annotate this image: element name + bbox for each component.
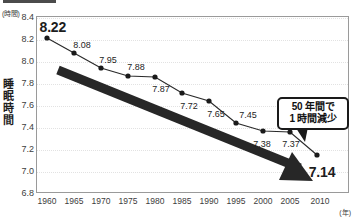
y-axis-ticks: 8.4 8.2 8.0 7.8 7.6 7.4 7.2 7.0 6.8 (0, 0, 34, 220)
y-tick-label: 7.4 (2, 122, 34, 132)
point-label: 7.72 (180, 101, 198, 111)
decline-callout: 50 年間で 1 時間減少 (277, 97, 349, 130)
point-label: 7.88 (127, 62, 145, 72)
point-label: 7.95 (99, 55, 117, 65)
point-label: 8.08 (73, 40, 91, 50)
point-label: 7.38 (253, 139, 271, 149)
y-tick-label: 7.2 (2, 144, 34, 154)
y-tick-label: 8.2 (2, 34, 34, 44)
point-label: 7.87 (152, 84, 170, 94)
gridline (37, 84, 348, 85)
callout-line-1: 50 年間で (279, 101, 347, 113)
x-tick-label: 2005 (273, 196, 307, 206)
y-tick-label: 7.6 (2, 100, 34, 110)
gridline (37, 62, 348, 63)
callout-line-2: 1 時間減少 (279, 113, 347, 125)
y-tick-label: 7.0 (2, 166, 34, 176)
point-label: 7.14 (309, 164, 335, 180)
gridline (37, 172, 348, 173)
x-axis-unit-label: (年) (339, 207, 351, 217)
point-label: 8.22 (40, 19, 66, 35)
point-label: 7.65 (207, 109, 225, 119)
y-tick-label: 8.0 (2, 56, 34, 66)
gridline (37, 150, 348, 151)
point-label: 7.37 (282, 139, 300, 149)
gridline (37, 18, 348, 19)
x-tick-label: 2010 (303, 196, 337, 206)
point-label: 7.45 (239, 110, 257, 120)
sleep-duration-chart: (時間) 睡 眠 時 間 8.4 8.2 8.0 7.8 7.6 7.4 7.2… (0, 0, 353, 220)
y-tick-label: 7.8 (2, 78, 34, 88)
y-tick-label: 8.4 (2, 12, 34, 22)
